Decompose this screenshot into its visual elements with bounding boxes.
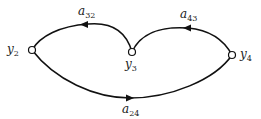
node-y3: y3 — [124, 49, 137, 74]
edge-label-a24: a24 — [122, 102, 139, 118]
arrow-right-icon — [126, 95, 134, 102]
node-y4: y4 — [229, 47, 252, 63]
edge-a24: a24 — [32, 50, 232, 118]
node-label-y2: y2 — [6, 42, 19, 58]
arrow-left-icon — [183, 25, 191, 32]
node-y2: y2 — [6, 42, 36, 58]
edge-label-a32: a32 — [78, 4, 95, 20]
edge-a32: a32 — [32, 4, 132, 52]
node-label-y4: y4 — [239, 47, 252, 63]
node-label-y3: y3 — [124, 57, 137, 73]
arrow-left-icon — [80, 21, 88, 28]
edge-a43: a43 — [132, 7, 232, 55]
signal-flow-graph: a32 a43 a24 y2 y3 y4 — [0, 0, 261, 119]
edge-label-a43: a43 — [180, 7, 197, 23]
